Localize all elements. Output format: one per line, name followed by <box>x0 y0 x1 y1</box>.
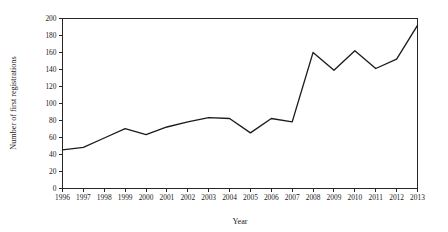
y-tick-label: 40 <box>49 150 57 159</box>
x-tick-label: 1998 <box>97 193 112 202</box>
x-tick-label: 2011 <box>368 193 383 202</box>
x-tick-label: 2005 <box>243 193 258 202</box>
x-tick-label: 1997 <box>76 193 91 202</box>
x-tick-label: 1999 <box>118 193 133 202</box>
x-tick-label: 2009 <box>327 193 342 202</box>
x-tick-label: 2001 <box>160 193 175 202</box>
line-chart-figure: 020406080100120140160180200 199619971998… <box>0 0 448 232</box>
y-tick-label: 180 <box>45 31 56 40</box>
y-tick-label: 20 <box>49 167 57 176</box>
x-tick-label: 2008 <box>306 193 321 202</box>
y-tick-label: 200 <box>45 14 56 23</box>
y-axis-title: Number of first registrations <box>9 56 18 149</box>
y-tick-label: 60 <box>49 133 57 142</box>
x-tick-label: 2013 <box>410 193 425 202</box>
y-tick-label: 80 <box>49 116 57 125</box>
x-tick-label: 2006 <box>264 193 279 202</box>
chart-canvas: 020406080100120140160180200 199619971998… <box>0 0 448 232</box>
x-tick-label: 2002 <box>180 193 195 202</box>
y-tick-label: 0 <box>53 184 57 193</box>
x-tick-label: 1996 <box>55 193 70 202</box>
x-tick-label: 2007 <box>285 193 300 202</box>
x-tick-label: 2000 <box>139 193 154 202</box>
x-tick-label: 2004 <box>222 193 237 202</box>
x-tick-label: 2003 <box>201 193 216 202</box>
x-tick-label: 2010 <box>347 193 362 202</box>
y-tick-label: 100 <box>45 99 56 108</box>
y-tick-label: 140 <box>45 65 56 74</box>
x-tick-label: 2012 <box>389 193 404 202</box>
x-axis-title: Year <box>232 217 247 226</box>
y-tick-label: 120 <box>45 82 56 91</box>
y-tick-label: 160 <box>45 48 56 57</box>
